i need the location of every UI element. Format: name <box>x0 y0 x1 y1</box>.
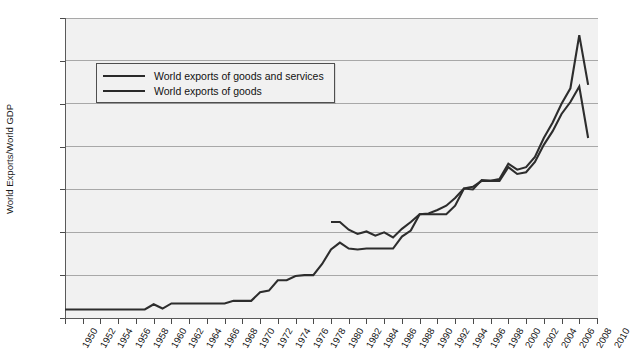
legend-swatch-goods-icon <box>103 90 145 92</box>
legend-item: World exports of goods and services <box>103 68 324 83</box>
x-tick-label: 2010 <box>612 326 632 350</box>
legend-label-goods-and-services: World exports of goods and services <box>154 70 324 82</box>
legend-label-goods: World exports of goods <box>154 85 262 97</box>
chart-legend: World exports of goods and services Worl… <box>96 63 335 103</box>
legend-item: World exports of goods <box>103 83 324 98</box>
series-line <box>65 87 588 310</box>
legend-swatch-goods-and-services-icon <box>103 75 145 77</box>
